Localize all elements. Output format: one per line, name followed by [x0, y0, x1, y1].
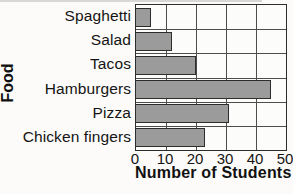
bar-pizza — [136, 104, 229, 123]
category-label: Spaghetti — [0, 4, 131, 28]
bar-spaghetti — [136, 8, 151, 27]
category-label: Chicken fingers — [0, 125, 131, 149]
horizontal-gridline — [136, 29, 286, 30]
horizontal-gridline — [136, 53, 286, 54]
horizontal-gridline — [136, 78, 286, 79]
plot-area — [135, 4, 287, 151]
scan-artifact-line — [0, 0, 262, 2]
bar-chart-figure: Food SpaghettiSaladTacosHamburgersPizzaC… — [0, 0, 293, 194]
bar-tacos — [136, 56, 196, 75]
category-label: Tacos — [0, 52, 131, 76]
horizontal-gridline — [136, 102, 286, 103]
category-label: Salad — [0, 28, 131, 52]
x-axis-title: Number of Students — [135, 164, 287, 182]
horizontal-gridline — [136, 126, 286, 127]
bar-chicken-fingers — [136, 128, 205, 147]
bar-salad — [136, 32, 172, 51]
category-label: Hamburgers — [0, 77, 131, 101]
category-label: Pizza — [0, 101, 131, 125]
bar-hamburgers — [136, 80, 271, 99]
